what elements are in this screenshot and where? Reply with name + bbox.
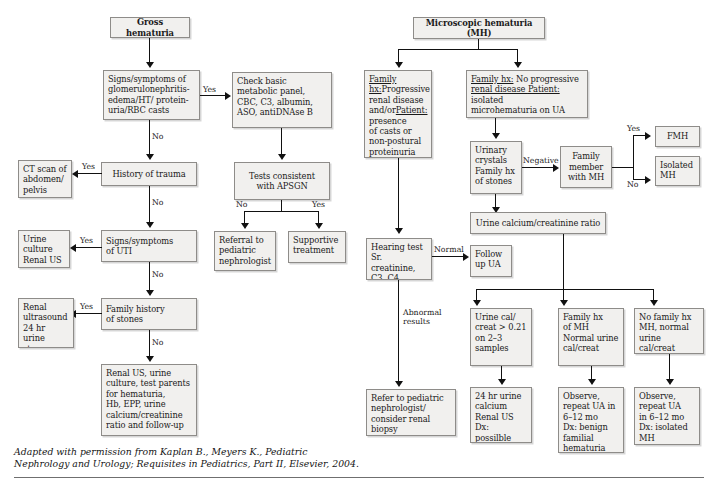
- arrow-down-check-to-tests: [278, 154, 286, 160]
- node-no-progressive-line1: Family hx:: [471, 74, 513, 84]
- connector-ratio-stem: [563, 234, 564, 290]
- node-family-member-with-mh: Family member with MH: [560, 146, 612, 188]
- arrow-down-progressive-to-hearing: [395, 228, 403, 234]
- arrow-down-gn-no: [146, 154, 154, 160]
- label-uti-no: No: [152, 270, 164, 279]
- connector-stones-yes: [76, 313, 102, 314]
- connector-check-to-tests: [281, 128, 282, 156]
- node-referral-nephrologist: Referral to pediatric nephrologist: [214, 231, 276, 271]
- arrow-down-apsgn-no: [241, 223, 249, 229]
- connector-hearing-normal: [432, 256, 464, 257]
- arrow-down-noprog-to-crystals: [492, 133, 500, 139]
- node-supportive-treatment: Supportive treatment: [288, 231, 346, 263]
- label-member-no: No: [627, 180, 639, 189]
- label-hearing-abnormal: Abnormal results: [403, 308, 442, 326]
- node-history-trauma: History of trauma: [101, 162, 197, 186]
- connector-member-bus: [633, 135, 634, 180]
- arrow-down-stones-no: [146, 356, 154, 362]
- connector-gross-to-signs: [149, 38, 150, 64]
- arrow-left-trauma-yes: [72, 170, 78, 178]
- label-stones-yes: Yes: [80, 302, 93, 311]
- node-tests-apsgn: Tests consistent with APSGN: [234, 162, 330, 200]
- node-isolated-mh: Isolated MH: [655, 156, 700, 186]
- arrow-down-ratio-branch-1: [473, 300, 481, 306]
- node-family-history-stones: Family history of stones: [101, 298, 197, 330]
- label-uti-yes: Yes: [80, 236, 93, 245]
- label-trauma-no: No: [152, 198, 164, 207]
- connector-hearing-abnormal: [398, 280, 399, 384]
- node-no-family-hx-mh: No family hx MH, normal urine cal/creat: [634, 308, 704, 354]
- arrow-down-trauma-no: [146, 222, 154, 228]
- connector-crystals-negative: [522, 167, 554, 168]
- arrow-right-member-no: [645, 176, 651, 184]
- node-family-hx-progressive: Family hx:Progressive renal disease and/…: [364, 70, 432, 158]
- label-hearing-normal: Normal: [434, 245, 464, 254]
- arrow-down-nofamilyhx-to-dx: [666, 379, 674, 385]
- connector-uti-yes: [76, 247, 102, 248]
- node-urinary-crystals: Urinary crystals Family hx of stones: [470, 141, 522, 194]
- figure-caption: Adapted with permission from Kaplan B., …: [14, 446, 414, 469]
- connector-ratio-bus: [476, 289, 654, 290]
- label-member-yes: Yes: [627, 124, 640, 133]
- arrow-down-familyhx-to-dx: [588, 379, 596, 385]
- node-urine-culture: Urine culture Renal US: [18, 230, 70, 268]
- flowchart-canvas: Gross hematuria Signs/symptoms of glomer…: [0, 0, 718, 488]
- arrow-down-apsgn-yes: [315, 223, 323, 229]
- connector-uti-no: [149, 262, 150, 292]
- node-refer-renal-biopsy: Refer to pediatric nephrologist/ conside…: [366, 389, 456, 436]
- arrow-down-ratio-branch-3: [650, 300, 658, 306]
- connector-apsgn-bus: [244, 211, 319, 212]
- arrow-down-hearing-abnormal: [395, 381, 403, 387]
- connector-progressive-to-hearing: [398, 158, 399, 230]
- node-hearing-test: Hearing test Sr. creatinine, C3, C4: [366, 238, 432, 280]
- node-urine-calcium-creatinine-ratio: Urine calcium/creatinine ratio: [470, 212, 606, 234]
- arrow-left-uti-yes: [70, 244, 76, 252]
- node-urine-cal-creat-high: Urine cal/ creat > 0.21 on 2–3 samples: [470, 308, 532, 366]
- node-fmh: FMH: [655, 126, 700, 147]
- node-gn-signs: Signs/symptoms of glomerulonephritis- ed…: [103, 70, 200, 120]
- node-gross-hematuria: Gross hematuria: [110, 17, 190, 38]
- node-uti-signs: Signs/symptoms of UTI: [101, 230, 197, 262]
- arrow-right-gn-yes: [225, 92, 231, 100]
- node-follow-up-ua: Follow up UA: [470, 245, 512, 277]
- node-family-hx-progressive-line3: Patient:: [396, 105, 428, 115]
- connector-gn-yes: [200, 95, 226, 96]
- arrow-down-ratio-branch-2: [560, 300, 568, 306]
- node-ct-scan: CT scan of abdomen/ pelvis: [18, 160, 72, 198]
- connector-member-stem: [612, 167, 634, 168]
- node-family-hx-mh-normal: Family hx of MH Normal urine cal/creat: [558, 308, 624, 366]
- connector-trauma-no: [149, 186, 150, 224]
- connector-nofamilyhx-to-dx: [669, 354, 670, 382]
- arrow-down-mh-left: [395, 62, 403, 68]
- arrow-down-gross-to-signs: [146, 62, 154, 68]
- node-dx-hypercalciuria: 24 hr urine calcium Renal US Dx: possilb…: [470, 387, 532, 443]
- connector-trauma-yes: [78, 173, 102, 174]
- label-trauma-yes: Yes: [82, 162, 95, 171]
- node-no-progressive-renal-disease: Family hx: No progressive renal disease …: [466, 70, 588, 118]
- label-stones-no: No: [152, 338, 164, 347]
- node-no-progressive-line5: isolated microhematuria on UA: [471, 95, 565, 115]
- connector-stones-no: [149, 330, 150, 358]
- label-gn-yes: Yes: [203, 85, 216, 94]
- node-renal-us-stone-profile: Renal ultrasound 24 hr urine stone profi…: [18, 298, 74, 348]
- node-microscopic-hematuria: Microscopic hematuria (MH): [413, 17, 545, 39]
- bottom-divider: [14, 477, 704, 478]
- node-dx-isolated-mh: Observe, repeat UA in 6–12 mo Dx: isolat…: [634, 387, 700, 445]
- connector-gn-no: [149, 120, 150, 156]
- node-no-progressive-line2: No progressive: [513, 74, 578, 84]
- node-dx-benign-familial-hematuria: Observe, repeat UA in 6–12 mo Dx: benign…: [558, 387, 624, 453]
- arrow-right-member-yes: [645, 132, 651, 140]
- connector-mh-bus: [398, 49, 518, 50]
- label-apsgn-no: No: [236, 200, 248, 209]
- label-gn-no: No: [152, 132, 164, 141]
- arrow-down-uti-no: [146, 290, 154, 296]
- node-family-hx-progressive-line4: presence of casts or non-postural protei…: [369, 116, 421, 157]
- arrow-down-high-to-dx: [498, 379, 506, 385]
- node-no-progressive-line4: Patient:: [528, 84, 560, 94]
- node-no-progressive-line3: renal disease: [471, 84, 528, 94]
- arrow-down-mh-right: [514, 62, 522, 68]
- node-general-workup: Renal US, urine culture, test parents fo…: [101, 364, 197, 436]
- node-check-basic: Check basic metabolic panel, CBC, C3, al…: [232, 72, 332, 128]
- label-apsgn-yes: Yes: [312, 200, 325, 209]
- label-crystals-negative: Negative: [523, 156, 559, 165]
